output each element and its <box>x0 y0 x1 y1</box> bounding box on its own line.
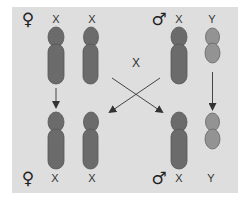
female-symbol-bottom: ♀ <box>22 170 34 187</box>
arrow-female-x-to-male <box>112 78 162 112</box>
male-x-chromosome-bottom <box>171 112 187 169</box>
male-symbol-bottom: ♂ <box>151 170 166 187</box>
male-y-chromosome-bottom <box>205 113 220 149</box>
female-x-chromosome-top-1 <box>48 27 64 84</box>
label-x-bottom-female-2: X <box>88 173 95 184</box>
male-y-chromosome-top <box>205 28 220 63</box>
label-x-bottom-female-1: X <box>51 173 58 184</box>
female-x-chromosome-bottom-1 <box>48 112 64 169</box>
female-x-chromosome-bottom-2 <box>83 112 99 169</box>
label-x-top-male: X <box>175 14 182 25</box>
label-y-bottom-male: Y <box>207 173 214 184</box>
female-symbol-top: ♀ <box>22 11 34 28</box>
label-y-top-male: Y <box>208 14 215 25</box>
male-symbol-top: ♂ <box>151 11 166 28</box>
female-x-chromosome-top-2 <box>83 27 99 84</box>
label-x-bottom-male: X <box>175 173 182 184</box>
label-x-top-female-1: X <box>52 14 59 25</box>
crossover-label: X <box>132 58 140 69</box>
chromosome-diagram <box>0 0 245 200</box>
arrow-male-x-to-female <box>110 78 160 112</box>
label-x-top-female-2: X <box>88 14 95 25</box>
male-x-chromosome-top <box>171 27 187 84</box>
